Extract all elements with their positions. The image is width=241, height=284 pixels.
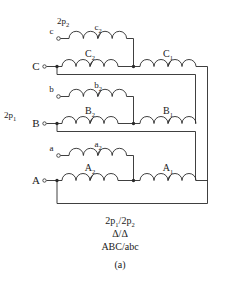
- winding-label-C1: C1: [163, 48, 173, 61]
- wire-b2-to-primary-junction: [127, 97, 134, 124]
- terminal-A-open-circle[interactable]: [43, 179, 46, 182]
- winding-label-A1: A1: [163, 162, 173, 175]
- caption-line-connection: Δ/Δ: [112, 228, 128, 239]
- wire-c2-to-primary-junction: [127, 39, 134, 67]
- winding-label-C2: C2: [85, 48, 95, 61]
- winding-label-a2: a2: [94, 139, 101, 151]
- coil-A1: [140, 174, 196, 181]
- winding-label-c2: c2: [94, 22, 101, 34]
- primary-phase-c-group: [43, 60, 208, 69]
- figure-caption: 2p1/2p2 Δ/Δ ABC/abc (a): [101, 215, 139, 271]
- primary-phase-a-group: [43, 174, 208, 183]
- terminal-B-open-circle[interactable]: [43, 122, 46, 125]
- primary-phase-b-group: [43, 117, 196, 126]
- coil-C1: [140, 60, 196, 67]
- caption-line-phasing: ABC/abc: [101, 241, 139, 252]
- terminal-label-c: c: [50, 26, 54, 36]
- terminal-label-C: C: [32, 60, 39, 72]
- rail-A-bottom-outer-loop: [57, 67, 208, 204]
- coil-B1: [140, 117, 196, 124]
- transformer-diagram: 2p1/2p2 Δ/Δ ABC/abc (a) 2p2 2p1 c b a C …: [0, 0, 241, 284]
- coil-A2: [62, 174, 118, 181]
- secondary-phase-c-group: [57, 31, 134, 66]
- wire-a2-to-primary-junction: [127, 156, 134, 181]
- terminal-label-a: a: [50, 143, 54, 153]
- terminal-label-b: b: [49, 84, 54, 94]
- terminal-b-open-circle[interactable]: [57, 95, 61, 99]
- caption-line-poles: 2p1/2p2: [105, 215, 134, 228]
- winding-label-B1: B1: [163, 105, 173, 118]
- figure-label: (a): [114, 259, 125, 271]
- terminal-label-B: B: [32, 117, 39, 129]
- terminal-c-open-circle[interactable]: [57, 37, 61, 41]
- terminal-C-open-circle[interactable]: [43, 65, 46, 68]
- winding-label-B2: B2: [85, 105, 95, 118]
- secondary-phase-b-group: [57, 89, 134, 123]
- coil-C2: [62, 60, 118, 67]
- coil-B2: [62, 117, 118, 124]
- rail-B-bottom-to-A: [57, 124, 196, 181]
- pole-label-secondary: 2p2: [57, 16, 69, 28]
- terminal-label-A: A: [32, 174, 40, 186]
- pole-label-primary: 2p1: [4, 110, 16, 122]
- winding-label-b2: b2: [94, 80, 102, 92]
- winding-label-A2: A2: [85, 162, 95, 175]
- terminal-a-open-circle[interactable]: [57, 154, 61, 158]
- secondary-phase-a-group: [57, 148, 134, 180]
